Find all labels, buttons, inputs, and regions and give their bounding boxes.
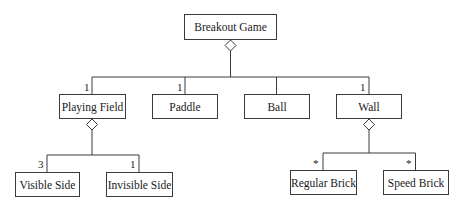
class-playing-field: Playing Field: [59, 94, 126, 119]
class-speed-brick: Speed Brick: [383, 170, 449, 195]
class-ball: Ball: [244, 94, 310, 119]
multiplicity-playing-field: 1: [84, 82, 90, 93]
class-label: Playing Field: [62, 101, 124, 113]
multiplicity-paddle: 1: [177, 82, 183, 93]
class-invisible-side: Invisible Side: [106, 172, 173, 197]
class-label: Speed Brick: [388, 177, 445, 189]
class-breakout-game: Breakout Game: [184, 14, 277, 40]
aggregation-diamond-wall: [364, 119, 375, 130]
multiplicity-wall: 1: [360, 82, 366, 93]
multiplicity-invisible-side: 1: [130, 159, 136, 170]
class-paddle: Paddle: [152, 94, 218, 119]
multiplicity-regular-brick: *: [313, 158, 319, 169]
class-regular-brick: Regular Brick: [290, 170, 357, 195]
class-label: Wall: [358, 101, 379, 113]
class-label: Paddle: [169, 101, 200, 113]
multiplicity-speed-brick: *: [406, 158, 412, 169]
class-label: Visible Side: [20, 179, 76, 191]
class-label: Invisible Side: [108, 179, 172, 191]
class-label: Ball: [267, 101, 286, 113]
multiplicity-visible-side: 3: [38, 159, 44, 170]
class-label: Breakout Game: [194, 21, 267, 33]
class-visible-side: Visible Side: [15, 172, 80, 197]
class-wall: Wall: [336, 94, 402, 119]
aggregation-diamond-playing-field: [87, 119, 98, 130]
aggregation-diamond-root: [225, 40, 236, 51]
class-label: Regular Brick: [291, 177, 356, 189]
